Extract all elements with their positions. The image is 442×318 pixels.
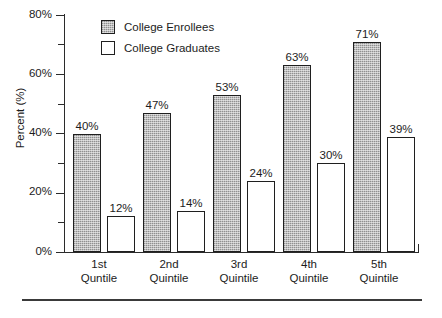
legend-item-enrollees: College Enrollees	[101, 16, 220, 37]
bar-value-enrollees-2: 47%	[145, 99, 168, 111]
bar-value-enrollees-5: 71%	[355, 28, 378, 40]
y-tick-major-60	[56, 74, 64, 75]
x-category-label-5: 5th Quintile	[344, 258, 414, 285]
y-tick-major-80	[56, 15, 64, 16]
x-category-line1-4: 4th	[274, 258, 344, 272]
x-category-line2-3: Quintile	[204, 272, 274, 286]
bar-value-graduates-3: 24%	[249, 167, 272, 179]
bar-value-graduates-2: 14%	[179, 197, 202, 209]
bar-graduates-2: 14%	[177, 211, 205, 253]
x-category-line1-3: 3rd	[204, 258, 274, 272]
y-tick-label-20: 20%	[10, 186, 52, 197]
bar-enrollees-5: 71%	[353, 42, 381, 252]
y-tick-label-60: 60%	[10, 68, 52, 79]
x-category-label-3: 3rd Quintile	[204, 258, 274, 285]
bar-graduates-1: 12%	[107, 216, 135, 252]
bar-value-graduates-5: 39%	[389, 123, 412, 135]
bar-enrollees-4: 63%	[283, 65, 311, 252]
legend-swatch-enrollees-icon	[101, 20, 115, 34]
legend-item-graduates: College Graduates	[101, 37, 220, 58]
x-category-line1-5: 5th	[344, 258, 414, 272]
bar-enrollees-2: 47%	[143, 113, 171, 252]
y-tick-label-80: 80%	[10, 9, 52, 20]
bar-value-enrollees-1: 40%	[75, 120, 98, 132]
x-category-line1-1: 1st	[64, 258, 134, 272]
legend-label-enrollees: College Enrollees	[124, 21, 214, 33]
y-tick-major-0	[56, 252, 64, 253]
y-tick-major-40	[56, 133, 64, 134]
bar-graduates-4: 30%	[317, 163, 345, 252]
x-category-line2-4: Quintile	[274, 272, 344, 286]
legend-label-graduates: College Graduates	[124, 42, 220, 54]
x-category-label-4: 4th Quintile	[274, 258, 344, 285]
x-category-line1-2: 2nd	[134, 258, 204, 272]
y-tick-major-20	[56, 193, 64, 194]
bar-graduates-5: 39%	[387, 137, 415, 253]
x-category-line2-1: Quntile	[64, 272, 134, 286]
bar-enrollees-1: 40%	[73, 134, 101, 253]
bar-value-graduates-1: 12%	[109, 202, 132, 214]
x-axis-line	[64, 252, 419, 253]
x-category-line2-2: Quintile	[134, 272, 204, 286]
bar-graduates-3: 24%	[247, 181, 275, 252]
chart-legend: College Enrollees College Graduates	[101, 16, 220, 58]
legend-swatch-graduates-icon	[101, 41, 115, 55]
x-category-line2-5: Quintile	[344, 272, 414, 286]
bar-chart-figure: Percent (%) 80% 60% 40% 20% 0% 40% 12% 4…	[0, 0, 442, 318]
y-tick-label-40: 40%	[10, 127, 52, 138]
bar-value-enrollees-4: 63%	[285, 51, 308, 63]
bar-value-enrollees-3: 53%	[215, 81, 238, 93]
bar-enrollees-3: 53%	[213, 95, 241, 252]
bar-value-graduates-4: 30%	[319, 149, 342, 161]
footer-divider	[22, 299, 422, 301]
y-tick-label-0: 0%	[10, 246, 52, 257]
x-category-label-1: 1st Quntile	[64, 258, 134, 285]
x-category-label-2: 2nd Quintile	[134, 258, 204, 285]
